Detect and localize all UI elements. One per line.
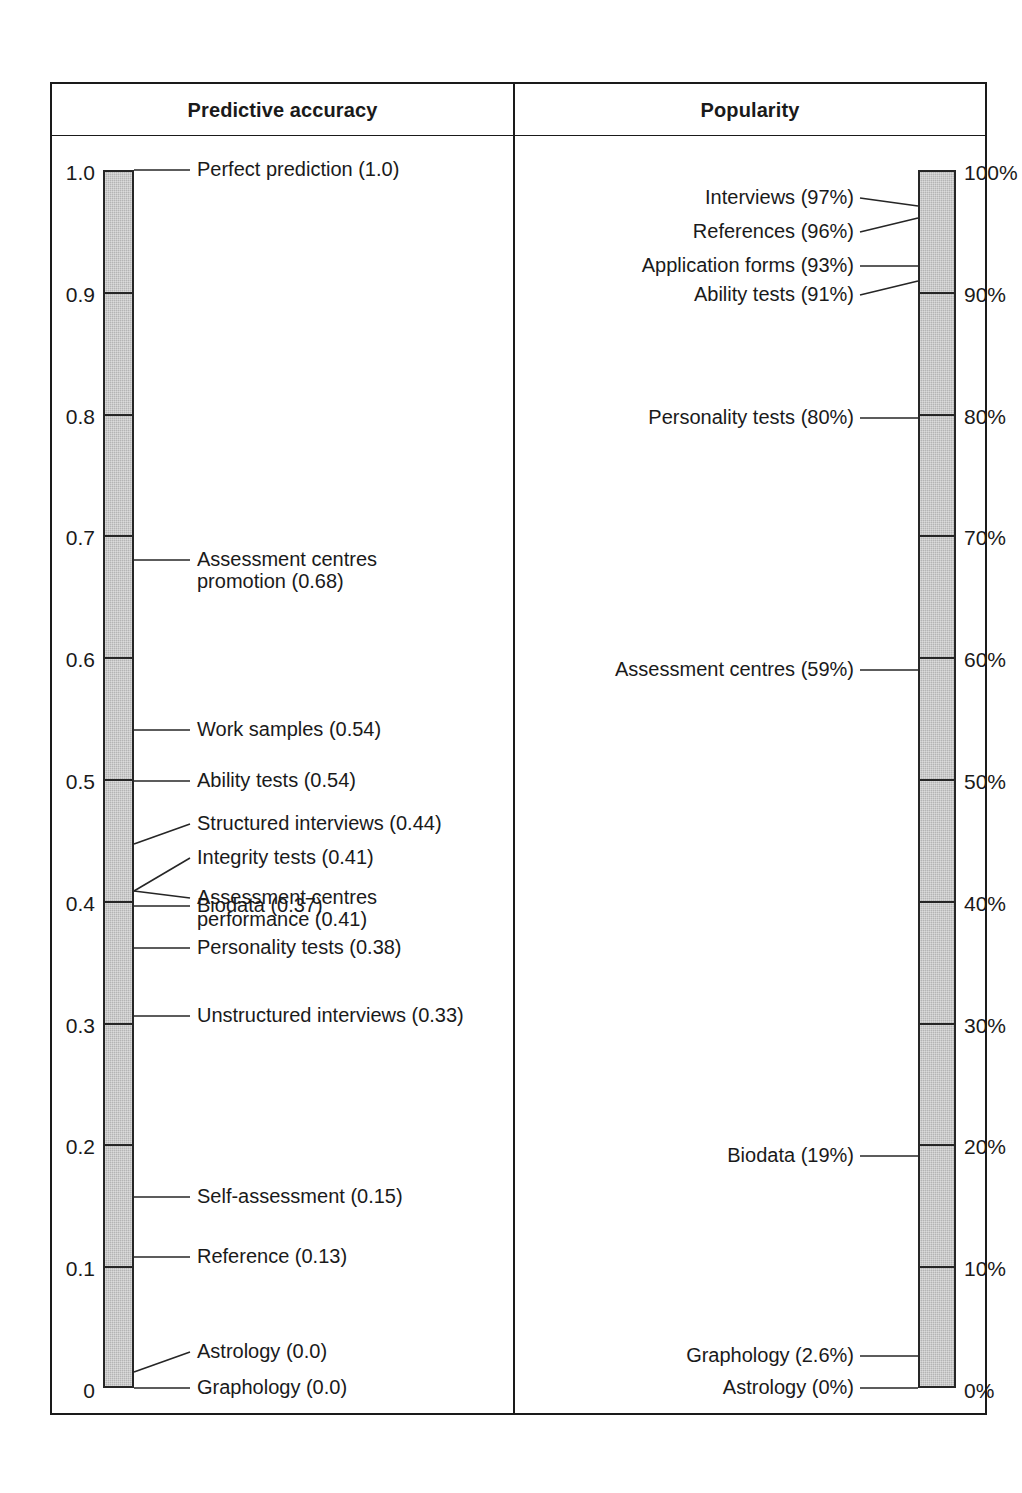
callout-astrology-popularity: Astrology (0%) (723, 1376, 854, 1398)
tick-line-0-5 (103, 779, 134, 781)
figure-frame: Predictive accuracy Popularity 1.0 0.9 0… (50, 82, 987, 1415)
popularity-leader-lines (515, 136, 985, 1413)
callout-unstructured-interviews: Unstructured interviews (0.33) (197, 1004, 464, 1026)
callout-assessment-centres-popularity: Assessment centres (59%) (615, 658, 854, 680)
axis-tick-1-0: 1.0 (66, 162, 95, 183)
popularity-axis-labels: 100% 90% 80% 70% 60% 50% 40% 30% 20% 10%… (964, 136, 1022, 1413)
callout-assessment-centres-promotion: Assessment centres promotion (0.68) (197, 548, 377, 593)
callout-personality-tests: Personality tests (0.38) (197, 936, 402, 958)
column-header-predictive-accuracy: Predictive accuracy (52, 84, 513, 136)
callout-integrity-tests: Integrity tests (0.41) (197, 846, 374, 868)
callout-ability-tests: Ability tests (0.54) (197, 769, 356, 791)
axis-tick-10pct: 10% (964, 1258, 1006, 1279)
axis-tick-0-1: 0.1 (66, 1258, 95, 1279)
axis-tick-0-5: 0.5 (66, 771, 95, 792)
tick-line-0-6 (103, 657, 134, 659)
tick-line-0-2 (103, 1144, 134, 1146)
callout-reference: Reference (0.13) (197, 1245, 347, 1267)
callout-astrology: Astrology (0.0) (197, 1340, 327, 1362)
tick-line-90pct (918, 292, 956, 294)
tick-line-50pct (918, 779, 956, 781)
tick-line-0-7 (103, 535, 134, 537)
callout-interviews: Interviews (97%) (705, 186, 854, 208)
axis-tick-0-6: 0.6 (66, 649, 95, 670)
tick-line-0-3 (103, 1023, 134, 1025)
tick-line-80pct (918, 414, 956, 416)
axis-tick-0: 0 (83, 1380, 95, 1401)
tick-line-0-8 (103, 414, 134, 416)
callout-graphology: Graphology (0.0) (197, 1376, 347, 1398)
callout-ability-tests-popularity: Ability tests (91%) (694, 283, 854, 305)
axis-tick-0pct: 0% (964, 1380, 994, 1401)
table-header-row: Predictive accuracy Popularity (52, 84, 985, 136)
callout-work-samples: Work samples (0.54) (197, 718, 381, 740)
axis-tick-40pct: 40% (964, 893, 1006, 914)
tick-line-0-9 (103, 292, 134, 294)
panel-predictive-accuracy: 1.0 0.9 0.8 0.7 0.6 0.5 0.4 0.3 0.2 0.1 … (52, 136, 513, 1413)
axis-tick-0-7: 0.7 (66, 527, 95, 548)
tick-line-60pct (918, 657, 956, 659)
axis-tick-0-2: 0.2 (66, 1136, 95, 1157)
tick-line-20pct (918, 1144, 956, 1146)
axis-tick-0-4: 0.4 (66, 893, 95, 914)
callout-graphology-popularity: Graphology (2.6%) (686, 1344, 854, 1366)
callout-references: References (96%) (693, 220, 854, 242)
tick-line-0-1 (103, 1266, 134, 1268)
tick-line-70pct (918, 535, 956, 537)
axis-tick-0-3: 0.3 (66, 1015, 95, 1036)
callout-biodata: Biodata (0.37) (197, 894, 323, 916)
tick-line-40pct (918, 901, 956, 903)
axis-tick-50pct: 50% (964, 771, 1006, 792)
panel-popularity: 100% 90% 80% 70% 60% 50% 40% 30% 20% 10%… (515, 136, 985, 1413)
tick-line-30pct (918, 1023, 956, 1025)
callout-personality-tests-popularity: Personality tests (80%) (648, 406, 854, 428)
axis-tick-90pct: 90% (964, 284, 1006, 305)
callout-perfect-prediction: Perfect prediction (1.0) (197, 158, 399, 180)
axis-tick-100pct: 100% (964, 162, 1018, 183)
axis-tick-80pct: 80% (964, 406, 1006, 427)
axis-tick-0-9: 0.9 (66, 284, 95, 305)
tick-line-0-4 (103, 901, 134, 903)
callout-biodata-popularity: Biodata (19%) (727, 1144, 854, 1166)
callout-application-forms: Application forms (93%) (642, 254, 854, 276)
callout-self-assessment: Self-assessment (0.15) (197, 1185, 403, 1207)
column-header-popularity: Popularity (515, 84, 985, 136)
axis-tick-70pct: 70% (964, 527, 1006, 548)
axis-tick-30pct: 30% (964, 1015, 1006, 1036)
callout-structured-interviews: Structured interviews (0.44) (197, 812, 442, 834)
axis-tick-0-8: 0.8 (66, 406, 95, 427)
axis-tick-60pct: 60% (964, 649, 1006, 670)
tick-line-10pct (918, 1266, 956, 1268)
axis-tick-20pct: 20% (964, 1136, 1006, 1157)
accuracy-axis-labels: 1.0 0.9 0.8 0.7 0.6 0.5 0.4 0.3 0.2 0.1 … (52, 136, 95, 1413)
